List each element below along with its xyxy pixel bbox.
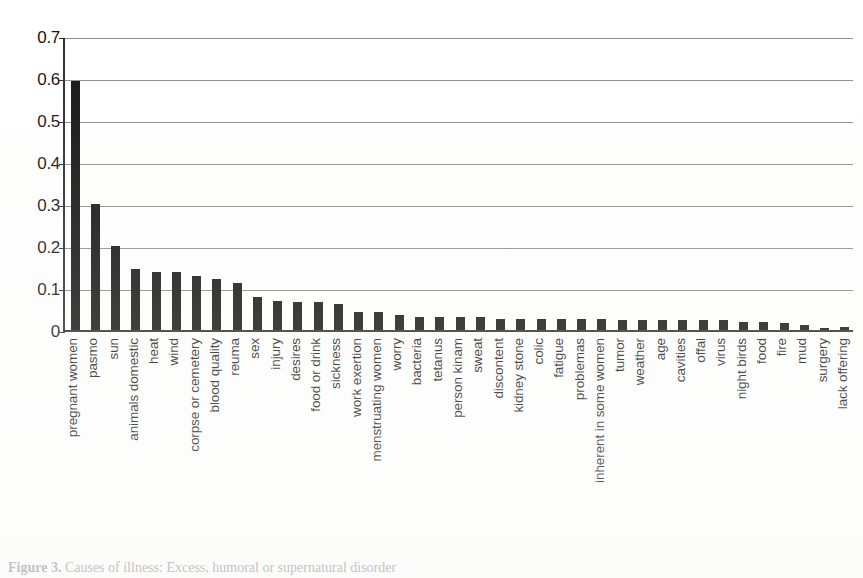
bar (111, 246, 120, 330)
x-axis-label-slot: age (653, 332, 669, 532)
x-axis-label-slot: heat (146, 332, 162, 532)
x-axis-label-slot: virus (713, 332, 729, 532)
x-axis-label: food (755, 338, 769, 364)
y-axis-tick-label: 0.7 (6, 29, 60, 46)
x-axis-label-slot: fatigue (551, 332, 567, 532)
x-axis-label-slot: pregnant women (65, 332, 81, 532)
bar (557, 319, 566, 330)
bar (152, 272, 161, 330)
bar (131, 269, 140, 330)
x-axis-label-slot: colic (531, 332, 547, 532)
x-axis-label-slot: weather (632, 332, 648, 532)
bar (597, 319, 606, 330)
x-axis-label-slot: tumor (612, 332, 628, 532)
x-axis-label: mud (796, 338, 810, 364)
x-axis-label: desires (289, 338, 303, 381)
x-axis-label: sex (249, 338, 263, 359)
bar (435, 317, 444, 330)
x-axis-label: wind (168, 338, 182, 365)
bar (192, 276, 201, 330)
x-axis-label: discontent (492, 338, 506, 399)
x-axis-label: sweat (472, 338, 486, 373)
x-axis-label: menstruating women (370, 338, 384, 462)
x-axis-label: lack offering (836, 338, 850, 409)
x-axis-label: animals domestic (127, 338, 141, 441)
x-axis-label: tetanus (431, 338, 445, 382)
bar-series (65, 38, 853, 330)
y-axis-tick-label: 0.4 (6, 155, 60, 172)
bar (91, 204, 100, 330)
x-axis-label: pasmo (87, 338, 101, 378)
x-axis-label: inherent in some women (593, 338, 607, 483)
bar (780, 323, 789, 330)
x-axis-label: fire (775, 338, 789, 356)
x-axis-label: fatigue (553, 338, 567, 378)
x-axis-label: sickness (330, 338, 344, 389)
x-axis-label: corpse or cemetery (188, 338, 202, 452)
x-axis-label-slot: lack offering (835, 332, 851, 532)
x-axis-label-slot: cavities (673, 332, 689, 532)
x-axis-label: reuma (228, 338, 242, 376)
x-axis-label: colic (532, 338, 546, 365)
x-axis-label-slot: wind (166, 332, 182, 532)
x-axis-label-slot: person kinam (450, 332, 466, 532)
x-axis-label-slot: sex (247, 332, 263, 532)
bar (658, 320, 667, 330)
x-axis-label: weather (634, 338, 648, 385)
x-axis-label-slot: food or drink (308, 332, 324, 532)
x-axis-label: age (654, 338, 668, 360)
plot-area (63, 38, 853, 332)
x-axis-category-labels: pregnant womenpasmosunanimals domestiche… (63, 332, 853, 542)
x-axis-label: offal (694, 338, 708, 363)
bar (233, 283, 242, 330)
bar (537, 319, 546, 330)
x-axis-label-slot: injury (268, 332, 284, 532)
bar (293, 302, 302, 330)
figure-caption: Figure 3. Causes of illness: Excess, hum… (8, 560, 708, 576)
x-axis-label-slot: night birds (734, 332, 750, 532)
x-axis-label-slot: kidney stone (511, 332, 527, 532)
bar (699, 320, 708, 330)
bar (334, 304, 343, 330)
x-axis-label: sun (107, 338, 121, 359)
x-axis-label-slot: surgery (815, 332, 831, 532)
x-axis-label-slot: sickness (328, 332, 344, 532)
x-axis-label-slot: tetanus (430, 332, 446, 532)
y-axis-tick-label: 0.3 (6, 197, 60, 214)
bar (314, 302, 323, 330)
x-axis-label-slot: sweat (470, 332, 486, 532)
bar (739, 322, 748, 330)
x-axis-label-slot: bacteria (409, 332, 425, 532)
x-axis-label-slot: work exertion (349, 332, 365, 532)
x-axis-label: pregnant women (66, 338, 80, 437)
x-axis-label: injury (269, 338, 283, 370)
x-axis-label-slot: pasmo (85, 332, 101, 532)
x-axis-label: food or drink (309, 338, 323, 412)
x-axis-label-slot: fire (774, 332, 790, 532)
bar (516, 319, 525, 330)
x-axis-label-slot: corpse or cemetery (187, 332, 203, 532)
y-axis-tick-label: 0.2 (6, 239, 60, 256)
bar (618, 320, 627, 330)
bar (840, 327, 849, 330)
x-axis-label-slot: menstruating women (369, 332, 385, 532)
bar (172, 272, 181, 330)
bar (678, 320, 687, 330)
x-axis-label: virus (715, 338, 729, 366)
x-axis-label: night birds (735, 338, 749, 399)
x-axis-label: tumor (613, 338, 627, 372)
bar (71, 81, 80, 330)
x-axis-label: surgery (816, 338, 830, 382)
bar (577, 319, 586, 330)
caption-label: Figure 3. (8, 560, 61, 575)
x-axis-label-slot: inherent in some women (592, 332, 608, 532)
bar (273, 301, 282, 330)
bar (476, 317, 485, 330)
x-axis-label: problemas (573, 338, 587, 400)
bar (415, 317, 424, 330)
x-axis-label-slot: desires (288, 332, 304, 532)
bar (719, 320, 728, 330)
bar (212, 279, 221, 330)
y-axis-tick-label: 0.5 (6, 113, 60, 130)
x-axis-label-slot: offal (693, 332, 709, 532)
